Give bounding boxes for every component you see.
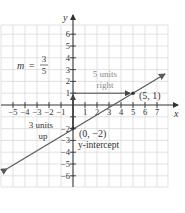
- svg-text:5: 5: [42, 66, 47, 76]
- svg-text:−2: −2: [44, 107, 53, 117]
- slope-graph-figure: −5 −4 −3 −2 −1 1 2 3 4 5 6 7 1 2 3 4 5 6…: [0, 0, 185, 213]
- svg-text:−3: −3: [32, 107, 41, 117]
- svg-text:2: 2: [66, 76, 70, 86]
- svg-text:5 units: 5 units: [93, 69, 118, 79]
- point-label-5-1: (5, 1): [139, 90, 161, 102]
- axes: [1, 15, 178, 187]
- svg-text:3: 3: [66, 65, 70, 75]
- svg-text:3: 3: [42, 54, 47, 64]
- x-tick-labels: −5 −4 −3 −2 −1 1 2 3 4 5 6 7: [8, 107, 159, 117]
- svg-text:4: 4: [119, 107, 124, 117]
- svg-text:−4: −4: [20, 107, 30, 117]
- svg-text:3 units: 3 units: [29, 120, 54, 130]
- svg-text:right: right: [97, 80, 114, 90]
- svg-text:up: up: [39, 131, 49, 141]
- y-axis-label: y: [62, 12, 68, 23]
- svg-text:1: 1: [66, 88, 70, 98]
- svg-text:−4: −4: [61, 147, 71, 157]
- svg-text:6: 6: [66, 29, 70, 39]
- svg-text:7: 7: [155, 107, 159, 117]
- point-y-intercept: [71, 127, 75, 131]
- svg-text:5: 5: [66, 41, 70, 51]
- point-5-1: [131, 91, 135, 95]
- svg-text:=: =: [29, 60, 35, 71]
- grid: [1, 25, 168, 187]
- y-intercept-label: y-intercept: [78, 140, 120, 150]
- svg-text:6: 6: [143, 107, 147, 117]
- svg-text:−5: −5: [8, 107, 17, 117]
- svg-text:−6: −6: [61, 171, 70, 181]
- rise-label: 3 units up: [29, 120, 54, 141]
- svg-text:−3: −3: [61, 135, 70, 145]
- svg-text:m: m: [17, 60, 24, 71]
- svg-text:−1: −1: [56, 107, 65, 117]
- svg-text:−5: −5: [61, 159, 70, 169]
- run-label: 5 units right: [93, 69, 118, 90]
- point-label-intercept: (0, −2): [79, 128, 106, 140]
- svg-text:5: 5: [131, 107, 135, 117]
- svg-text:1: 1: [83, 107, 87, 117]
- slope-annotation: m = 3 5: [17, 54, 48, 76]
- x-axis-label: x: [173, 108, 179, 119]
